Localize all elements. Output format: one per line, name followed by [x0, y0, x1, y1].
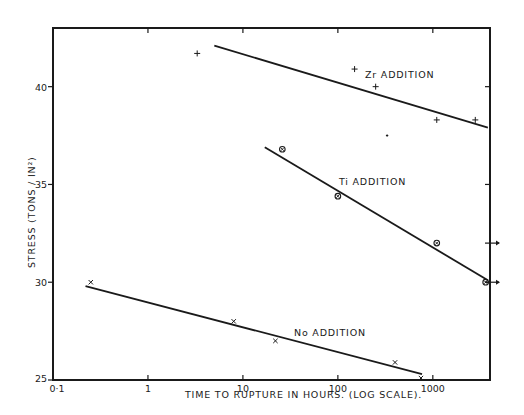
circled-x-marker-cross [281, 148, 284, 151]
stress-rupture-chart: 0·1110100100025303540 TIME TO RUPTURE IN… [0, 0, 524, 415]
label-zr-addition: Zr ADDITION [365, 69, 434, 80]
plus-marker [352, 66, 358, 72]
series-layer [86, 46, 489, 381]
fit-line [86, 286, 423, 374]
y-tick-label: 40 [35, 82, 47, 93]
y-axis-label: STRESS (TONS / IN²) [26, 156, 37, 268]
fit-line [214, 46, 488, 128]
circled-x-marker-cross [336, 195, 339, 198]
series-ti-addition [265, 146, 489, 285]
y-tick-label: 25 [35, 373, 47, 384]
label-ti-addition: Ti ADDITION [338, 176, 406, 187]
plot-frame [53, 28, 490, 380]
x-axis-label: TIME TO RUPTURE IN HOURS. (LOG SCALE). [184, 389, 422, 400]
fit-line [265, 147, 488, 280]
plus-marker [373, 84, 379, 90]
x-tick-label: 1 [145, 383, 151, 394]
plus-marker [386, 134, 388, 136]
x-marker [89, 280, 93, 284]
plus-marker [434, 117, 440, 123]
x-marker [273, 339, 277, 343]
x-tick-label: 0·1 [49, 383, 64, 394]
plus-marker [194, 50, 200, 56]
arrow-head-icon [496, 280, 500, 285]
x-marker [393, 360, 397, 364]
plus-marker [472, 117, 478, 123]
x-marker [232, 319, 236, 323]
x-tick-label: 1000 [421, 383, 445, 394]
circled-x-marker-cross [435, 242, 438, 245]
series-no-addition [86, 280, 424, 380]
label-no-addition: No ADDITION [294, 327, 366, 338]
axes: 0·1110100100025303540 [35, 28, 500, 394]
y-tick-label: 30 [35, 277, 47, 288]
series-zr-addition [194, 46, 488, 137]
arrow-head-icon [496, 241, 500, 246]
